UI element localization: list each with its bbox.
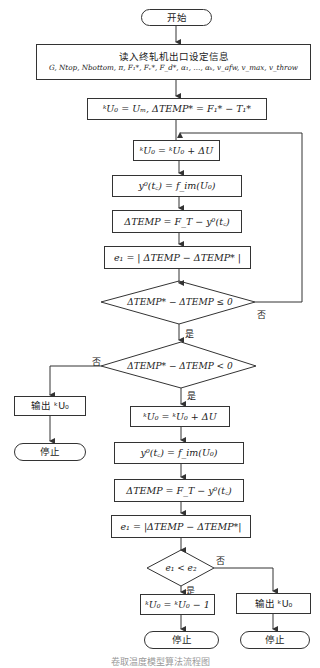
start-terminal: 开始 <box>141 9 212 26</box>
decision3-label: e₁ < e₂ <box>152 561 210 575</box>
right-stop-terminal: 停止 <box>240 631 310 649</box>
decision1-label: ΔTEMP* − ΔTEMP ≤ 0 <box>110 295 250 309</box>
read-input-params: G, Ntop, Nbottom, π, F₁*, Fᵥ*, F_d*, α₁,… <box>49 64 298 73</box>
loop2-predict-box: y⁰(t꜀) = f_im(U₀) <box>114 442 244 464</box>
read-input-box: 读入终轧机出口设定信息 G, Ntop, Nbottom, π, F₁*, Fᵥ… <box>36 44 311 80</box>
decision2-yes-label: 是 <box>187 389 196 402</box>
loop1-error-box: e₁ = | ΔTEMP − ΔTEMP* | <box>104 246 251 269</box>
decision2-no-label: 否 <box>92 355 101 368</box>
decision1-yes-label: 是 <box>185 327 194 340</box>
decision1-no-label: 否 <box>257 308 266 321</box>
left-stop-terminal: 停止 <box>14 443 86 461</box>
init-box: ᵏU₀ = Uₘ, ΔTEMP* = F₁* − T₁* <box>87 98 267 120</box>
decision2-label: ΔTEMP* − ΔTEMP < 0 <box>110 359 250 373</box>
loop1-delta-box: ΔTEMP = F_T − y⁰(t꜀) <box>112 210 242 233</box>
decrement-box: ᵏU₀ = ᵏU₀ − 1 <box>140 594 215 615</box>
loop2-delta-box: ΔTEMP = F_T − y⁰(t꜀) <box>114 479 244 502</box>
loop1-update-box: ᵏU₀ = ᵏU₀ + ΔU <box>133 140 220 161</box>
decision3-no-label: 否 <box>216 554 225 567</box>
loop2-update-box: ᵏU₀ = ᵏU₀ + ΔU <box>130 406 230 427</box>
loop1-predict-box: y⁰(t꜀) = f_im(U₀) <box>112 175 242 197</box>
read-input-title: 读入终轧机出口设定信息 <box>119 51 229 62</box>
figure-caption: 卷取温度模型算法流程图 <box>0 655 320 668</box>
right-output-box: 输出 ᵏU₀ <box>236 593 311 614</box>
yes-stop-terminal: 停止 <box>144 631 219 649</box>
loop2-error-box: e₁ = |ΔTEMP − ΔTEMP*| <box>111 515 251 538</box>
left-output-box: 输出 ᵏU₀ <box>14 396 86 416</box>
